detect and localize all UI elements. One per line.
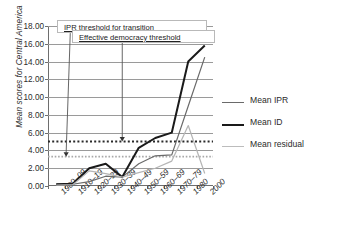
legend-swatch xyxy=(222,146,244,147)
legend-swatch xyxy=(222,102,244,103)
chart-figure: Mean scores for Central America 0.002.00… xyxy=(0,0,358,240)
y-tick-label: 14.00 xyxy=(24,57,45,66)
x-tick-label: 1930–39 xyxy=(109,190,115,196)
x-tick-label: 2000 xyxy=(208,190,214,196)
y-tick-label: 4.00 xyxy=(28,146,44,155)
y-tick-label: 2.00 xyxy=(28,164,44,173)
y-tick-label: 6.00 xyxy=(28,128,44,137)
x-tick-label: 1980 xyxy=(191,190,197,196)
x-tick-label: 1900–09 xyxy=(59,190,65,196)
x-tick-label: 1950–59 xyxy=(142,190,148,196)
ipr-threshold-arrow xyxy=(66,33,70,153)
legend-label: Mean ID xyxy=(250,117,282,127)
legend-label: Mean residual xyxy=(250,139,304,149)
x-tick-label: 1920–29 xyxy=(92,190,98,196)
series-line-mean-id xyxy=(56,46,205,185)
plot-area: 0.002.004.006.008.0010.0012.0014.0016.00… xyxy=(48,26,213,186)
chart-legend: Mean IPRMean IDMean residual xyxy=(222,92,354,158)
y-tick-label: 10.00 xyxy=(24,93,45,102)
x-tick-label: 1910–19 xyxy=(76,190,82,196)
series-line-mean-ipr xyxy=(56,57,205,184)
legend-swatch xyxy=(222,124,244,126)
x-tick-label: 1970–79 xyxy=(175,190,181,196)
y-tick-label: 0.00 xyxy=(28,182,44,191)
series-lines xyxy=(48,26,213,186)
series-line-mean-residual xyxy=(56,126,205,186)
effective-democracy-annotation-label: Effective democracy threshold xyxy=(79,33,181,42)
legend-item[interactable]: Mean residual xyxy=(222,136,354,158)
y-tick-label: 18.00 xyxy=(24,22,45,31)
legend-item[interactable]: Mean ID xyxy=(222,114,354,136)
ipr-threshold-arrow-head xyxy=(64,152,69,157)
y-tick-label: 16.00 xyxy=(24,39,45,48)
effective-democracy-annotation: Effective democracy threshold xyxy=(72,30,215,43)
y-tick-label: 8.00 xyxy=(28,110,44,119)
x-tick-label: 1940–49 xyxy=(125,190,131,196)
x-tick-label: 1960–69 xyxy=(158,190,164,196)
y-tick-label: 12.00 xyxy=(24,75,45,84)
legend-item[interactable]: Mean IPR xyxy=(222,92,354,114)
y-axis-title: Mean scores for Central America xyxy=(15,0,24,152)
legend-label: Mean IPR xyxy=(250,95,288,105)
x-tick-mark xyxy=(48,186,49,189)
